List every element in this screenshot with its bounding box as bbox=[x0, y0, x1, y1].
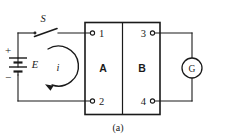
terminal-1-node[interactable] bbox=[90, 31, 94, 35]
current-label: i bbox=[57, 62, 60, 73]
battery-negative-sign: − bbox=[5, 71, 11, 83]
switch-pivot-contact bbox=[34, 32, 36, 34]
switch-blade[interactable] bbox=[35, 29, 58, 37]
terminal-4-node[interactable] bbox=[150, 99, 154, 103]
block-a-label: A bbox=[99, 62, 107, 74]
figure-caption: (a) bbox=[112, 122, 123, 134]
battery-positive-sign: + bbox=[5, 44, 11, 56]
battery-label: E bbox=[31, 59, 39, 70]
terminal-3-node[interactable] bbox=[150, 31, 154, 35]
block-b-label: B bbox=[138, 62, 146, 74]
terminal-3-label: 3 bbox=[141, 28, 146, 39]
terminal-4-label: 4 bbox=[141, 96, 147, 107]
terminal-2-node[interactable] bbox=[90, 99, 94, 103]
galvanometer-label: G bbox=[189, 64, 196, 74]
switch-label: S bbox=[40, 13, 46, 24]
circuit-diagram-canvas: S + − E i A B 1 2 3 bbox=[0, 0, 234, 139]
terminal-1-label: 1 bbox=[99, 28, 104, 39]
current-loop-arc bbox=[48, 46, 78, 86]
terminal-2-label: 2 bbox=[99, 96, 104, 107]
circuit-figure: S + − E i A B 1 2 3 bbox=[0, 0, 234, 139]
